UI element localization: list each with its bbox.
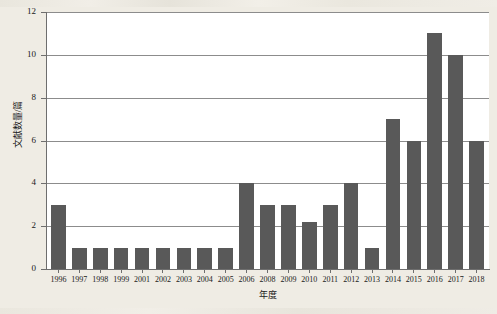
x-tick-mark (434, 269, 435, 273)
x-tick-mark (476, 269, 477, 273)
bar (135, 248, 150, 269)
y-tick-label: 4 (6, 178, 36, 187)
bar (386, 119, 401, 269)
y-axis-title: 文献数量/篇 (11, 82, 24, 168)
bar (344, 183, 359, 269)
bar (365, 248, 380, 269)
bar-slot (69, 12, 90, 269)
x-tick-label: 1999 (111, 274, 132, 286)
bar-slot (424, 12, 445, 269)
bar (177, 248, 192, 269)
x-tick-slot (236, 269, 257, 273)
x-axis-tick-marks (46, 269, 489, 273)
y-tick-mark (41, 269, 46, 270)
x-axis-tick-labels: 1996199719981999200120022003200420052006… (46, 274, 489, 286)
x-tick-label: 2011 (320, 274, 341, 286)
x-tick-mark (225, 269, 226, 273)
bar-slot (90, 12, 111, 269)
x-tick-mark (392, 269, 393, 273)
y-tick-mark (41, 226, 46, 227)
y-tick-label: 12 (6, 7, 36, 16)
x-tick-slot (299, 269, 320, 273)
x-tick-slot (194, 269, 215, 273)
y-tick-label: 0 (6, 264, 36, 273)
x-tick-mark (413, 269, 414, 273)
scan-noise-top (0, 0, 497, 7)
bar-slot (48, 12, 69, 269)
y-tick-label: 10 (6, 50, 36, 59)
bar (156, 248, 171, 269)
x-tick-label: 2008 (257, 274, 278, 286)
x-tick-label: 2018 (466, 274, 487, 286)
x-tick-label: 2010 (299, 274, 320, 286)
bar (281, 205, 296, 269)
x-tick-label: 2015 (403, 274, 424, 286)
bar (218, 248, 233, 269)
bar-slot (341, 12, 362, 269)
x-tick-slot (215, 269, 236, 273)
bar-slot (111, 12, 132, 269)
bar-slot (383, 12, 404, 269)
x-tick-label: 2009 (278, 274, 299, 286)
y-tick-label: 2 (6, 221, 36, 230)
x-tick-mark (351, 269, 352, 273)
x-tick-label: 2004 (194, 274, 215, 286)
x-tick-slot (257, 269, 278, 273)
x-axis-title: 年度 (46, 288, 489, 301)
bar-slot (362, 12, 383, 269)
x-tick-slot (383, 269, 404, 273)
x-tick-label: 2013 (362, 274, 383, 286)
bar (51, 205, 66, 269)
bar-slot (403, 12, 424, 269)
x-tick-mark (372, 269, 373, 273)
bar (427, 33, 442, 269)
x-tick-label: 1998 (90, 274, 111, 286)
x-tick-label: 2005 (215, 274, 236, 286)
x-tick-slot (466, 269, 487, 273)
bar (260, 205, 275, 269)
bar-slot (132, 12, 153, 269)
x-tick-label: 1996 (48, 274, 69, 286)
x-tick-mark (204, 269, 205, 273)
x-tick-mark (79, 269, 80, 273)
x-tick-slot (341, 269, 362, 273)
x-tick-slot (173, 269, 194, 273)
x-tick-slot (320, 269, 341, 273)
x-tick-label: 2006 (236, 274, 257, 286)
x-tick-slot (132, 269, 153, 273)
x-tick-slot (445, 269, 466, 273)
y-tick-mark (41, 98, 46, 99)
scan-noise-bottom (0, 308, 497, 314)
x-tick-mark (121, 269, 122, 273)
x-tick-slot (48, 269, 69, 273)
bar (448, 55, 463, 269)
x-tick-label: 2012 (341, 274, 362, 286)
bar-slot (153, 12, 174, 269)
x-tick-mark (100, 269, 101, 273)
bar-slot (299, 12, 320, 269)
bar (93, 248, 108, 269)
x-tick-mark (142, 269, 143, 273)
bars-group (46, 12, 489, 269)
bar-slot (445, 12, 466, 269)
bar-slot (466, 12, 487, 269)
x-tick-slot (111, 269, 132, 273)
y-tick-mark (41, 55, 46, 56)
x-tick-label: 2016 (424, 274, 445, 286)
x-tick-mark (246, 269, 247, 273)
x-tick-label: 2001 (132, 274, 153, 286)
x-tick-mark (267, 269, 268, 273)
bar-slot (215, 12, 236, 269)
x-tick-label: 2002 (153, 274, 174, 286)
x-tick-slot (153, 269, 174, 273)
x-tick-mark (162, 269, 163, 273)
x-tick-label: 1997 (69, 274, 90, 286)
bar-chart-figure: 024681012 文献数量/篇 19961997199819992001200… (0, 0, 497, 314)
x-tick-label: 2003 (173, 274, 194, 286)
bar (323, 205, 338, 269)
bar-slot (278, 12, 299, 269)
y-tick-mark (41, 141, 46, 142)
bar-slot (173, 12, 194, 269)
x-tick-slot (278, 269, 299, 273)
y-tick-mark (41, 12, 46, 13)
